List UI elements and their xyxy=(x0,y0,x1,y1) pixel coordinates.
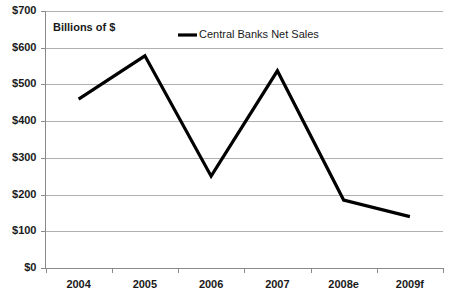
y-tick-label: $600 xyxy=(12,41,36,53)
y-tick-label: $200 xyxy=(12,188,36,200)
x-tick-label: 2007 xyxy=(265,278,289,290)
y-tick-label: $400 xyxy=(12,114,36,126)
x-tick-label: 2005 xyxy=(133,278,157,290)
y-tick-label: $0 xyxy=(24,261,36,273)
x-tick-label: 2004 xyxy=(66,278,91,290)
x-tick-label: 2008e xyxy=(328,278,359,290)
y-tick-label: $100 xyxy=(12,224,36,236)
y-tick-label: $500 xyxy=(12,77,36,89)
units-note: Billions of $ xyxy=(53,21,115,33)
chart-legend: Central Banks Net Sales xyxy=(178,28,319,40)
y-tick-label: $300 xyxy=(12,151,36,163)
y-tick-label: $700 xyxy=(12,4,36,16)
line-chart: $0$100$200$300$400$500$600$700 200420052… xyxy=(0,0,453,301)
x-tick-label: 2006 xyxy=(199,278,223,290)
x-tick-label: 2009f xyxy=(396,278,424,290)
legend-label: Central Banks Net Sales xyxy=(199,28,319,40)
chart-container: $0$100$200$300$400$500$600$700 200420052… xyxy=(0,0,453,301)
